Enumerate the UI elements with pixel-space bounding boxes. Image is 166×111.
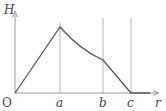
origin-label: O <box>2 96 12 110</box>
tick-label-c: c <box>127 96 134 110</box>
h-curve <box>15 27 150 93</box>
tick-label-a: a <box>56 96 63 110</box>
tick-label-b: b <box>99 96 107 110</box>
x-axis-label: r <box>155 96 162 110</box>
y-axis-label: H <box>3 3 15 17</box>
diagram: H r O a b c <box>0 0 166 111</box>
